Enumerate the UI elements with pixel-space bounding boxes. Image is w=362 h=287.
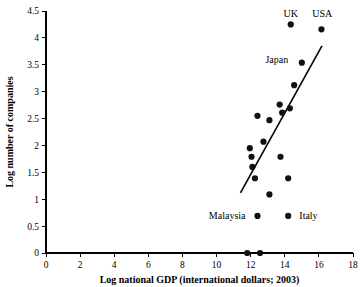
y-tick-label: 0.5 bbox=[27, 222, 39, 232]
data-point bbox=[287, 105, 293, 111]
data-point bbox=[266, 117, 272, 123]
data-point bbox=[266, 191, 272, 197]
annotation-uk: UK bbox=[284, 8, 299, 19]
data-point bbox=[257, 250, 263, 256]
y-tick-label: 0 bbox=[34, 248, 39, 258]
data-point bbox=[277, 101, 283, 107]
x-tick-label: 8 bbox=[180, 260, 185, 270]
y-tick-label: 3 bbox=[34, 87, 39, 97]
x-tick-label: 2 bbox=[78, 260, 83, 270]
y-tick-label: 1 bbox=[34, 195, 39, 205]
y-axis-title: Log number of companies bbox=[4, 76, 15, 187]
annotation-italy: Italy bbox=[299, 210, 317, 221]
data-point bbox=[254, 113, 260, 119]
x-tick-label: 10 bbox=[212, 260, 222, 270]
data-point bbox=[244, 250, 250, 256]
annotation-malaysia: Malaysia bbox=[209, 210, 246, 221]
x-tick-label: 0 bbox=[44, 260, 49, 270]
y-tick-label: 3.5 bbox=[27, 60, 39, 70]
x-tick-label: 14 bbox=[280, 260, 290, 270]
y-tick-label: 4.5 bbox=[27, 6, 39, 16]
data-point bbox=[285, 213, 291, 219]
data-point bbox=[260, 139, 266, 145]
y-tick-label: 2.5 bbox=[27, 114, 39, 124]
y-tick-label: 2 bbox=[34, 141, 39, 151]
scatter-plot: 00.511.522.533.544.5024681012141618UKUSA… bbox=[0, 0, 362, 287]
data-point bbox=[285, 175, 291, 181]
data-point bbox=[299, 60, 305, 66]
y-tick-label: 1.5 bbox=[27, 168, 39, 178]
x-tick-label: 16 bbox=[314, 260, 324, 270]
regression-line bbox=[240, 46, 322, 193]
y-tick-label: 4 bbox=[34, 33, 39, 43]
x-tick-label: 18 bbox=[348, 260, 358, 270]
data-point bbox=[318, 26, 324, 32]
data-point bbox=[291, 82, 297, 88]
x-tick-label: 4 bbox=[112, 260, 117, 270]
data-point bbox=[247, 145, 253, 151]
chart-figure: 00.511.522.533.544.5024681012141618UKUSA… bbox=[0, 0, 362, 287]
x-axis-title: Log national GDP (international dollars;… bbox=[100, 274, 300, 286]
data-point bbox=[254, 213, 260, 219]
x-tick-label: 12 bbox=[246, 260, 256, 270]
annotation-usa: USA bbox=[312, 8, 333, 19]
annotation-japan: Japan bbox=[265, 54, 288, 65]
data-point bbox=[248, 154, 254, 160]
data-point bbox=[279, 110, 285, 116]
data-point bbox=[249, 164, 255, 170]
data-point bbox=[277, 154, 283, 160]
data-point bbox=[252, 175, 258, 181]
x-tick-label: 6 bbox=[146, 260, 151, 270]
data-point bbox=[288, 21, 294, 27]
